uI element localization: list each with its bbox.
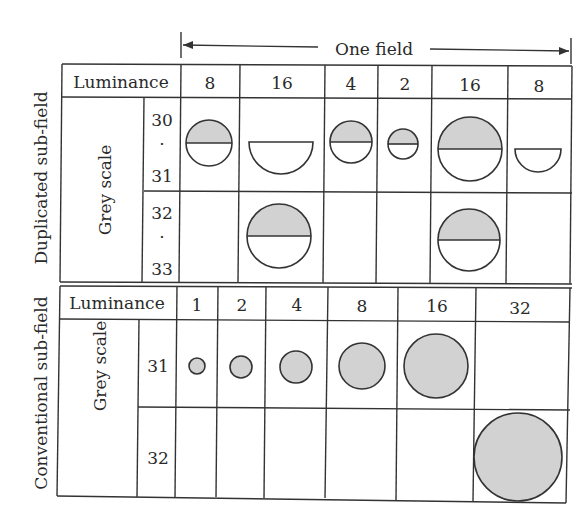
split-circle-shape bbox=[438, 209, 500, 271]
duplicated-grid bbox=[60, 64, 572, 288]
lower-half-shape bbox=[515, 149, 561, 172]
duplicated-luminance-header: Luminance 8 16 4 2 16 8 bbox=[73, 72, 544, 96]
one-field-label: One field bbox=[335, 39, 413, 59]
luminance-weight: 32 bbox=[509, 298, 531, 318]
filled-disc bbox=[404, 334, 468, 398]
conventional-row-32 bbox=[474, 413, 562, 501]
grey-value: 32 bbox=[151, 203, 173, 223]
filled-disc bbox=[189, 358, 205, 374]
luminance-weight: 16 bbox=[271, 73, 293, 93]
luminance-header-label: Luminance bbox=[69, 293, 164, 313]
filled-disc bbox=[230, 356, 252, 378]
luminance-weight: 4 bbox=[346, 74, 357, 94]
luminance-weight: 8 bbox=[534, 76, 545, 96]
luminance-weight: 1 bbox=[192, 295, 203, 315]
luminance-weight: 2 bbox=[400, 74, 411, 94]
grey-value: 30 bbox=[151, 110, 173, 130]
conventional-subfield-label: Conventional sub-field bbox=[31, 296, 51, 489]
lower-half-shape bbox=[249, 142, 313, 174]
duplicated-row-30-31 bbox=[186, 117, 561, 181]
duplicated-subfield-label: Duplicated sub-field bbox=[31, 91, 51, 264]
luminance-weight: 8 bbox=[205, 73, 216, 93]
grey-scale-label: Grey scale bbox=[90, 321, 110, 412]
luminance-weight: 2 bbox=[237, 295, 248, 315]
luminance-weight: 16 bbox=[459, 75, 481, 95]
duplicated-row-32-33 bbox=[247, 204, 500, 271]
conventional-luminance-header: Luminance 1 2 4 8 16 32 bbox=[69, 293, 531, 318]
filled-disc bbox=[280, 351, 312, 383]
grey-value: 31 bbox=[151, 166, 173, 186]
grey-scale-label: Grey scale bbox=[95, 145, 115, 236]
filled-disc bbox=[339, 343, 385, 389]
grey-dot: · bbox=[159, 134, 164, 154]
grey-value: 33 bbox=[151, 259, 173, 279]
one-field-span: One field bbox=[181, 32, 571, 64]
split-circle-shape bbox=[186, 120, 232, 166]
duplicated-grey-values: 30 · 31 32 · 33 bbox=[151, 110, 173, 279]
luminance-weight: 16 bbox=[426, 296, 448, 316]
split-circle-shape bbox=[247, 204, 311, 268]
luminance-weight: 8 bbox=[357, 296, 368, 316]
luminance-weight: 4 bbox=[292, 295, 303, 315]
grey-dot: · bbox=[159, 227, 164, 247]
arrow-left-icon bbox=[183, 41, 193, 49]
split-circle-shape bbox=[330, 121, 372, 163]
conventional-row-31 bbox=[189, 334, 468, 398]
grey-value: 31 bbox=[147, 356, 169, 376]
luminance-header-label: Luminance bbox=[73, 72, 168, 92]
arrow-right-icon bbox=[559, 47, 569, 55]
filled-disc bbox=[474, 413, 562, 501]
grey-value: 32 bbox=[147, 448, 169, 468]
split-circle-shape bbox=[438, 117, 502, 181]
sub-field-diagram: One field Duplicated sub-field Conventio… bbox=[0, 0, 586, 525]
split-circle-shape bbox=[388, 129, 418, 159]
